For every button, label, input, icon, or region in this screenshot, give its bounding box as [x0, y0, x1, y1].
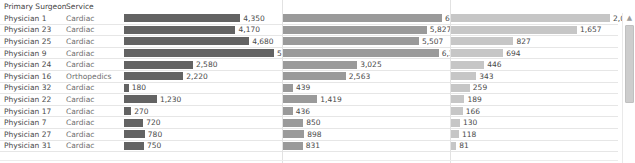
bar-measure-1[interactable]	[124, 119, 143, 127]
table-row[interactable]: Physician 31Cardiac75083181	[0, 141, 618, 153]
bar-measure-2[interactable]	[282, 72, 346, 80]
bar-measure-2[interactable]	[282, 61, 357, 69]
table-bottom-edge	[0, 160, 618, 161]
table-row[interactable]: Physician 16Orthopedics2,2202,563343	[0, 71, 618, 83]
bar-measure-1[interactable]	[124, 14, 240, 22]
bar-cell-measure-3: 81	[450, 140, 618, 152]
bar-cell-measure-1: 180	[124, 82, 282, 94]
bar-measure-1[interactable]	[124, 49, 274, 57]
cell-service: Cardiac	[62, 49, 124, 58]
bar-measure-3[interactable]	[450, 119, 460, 127]
bar-measure-3[interactable]	[450, 72, 476, 80]
bar-measure-1[interactable]	[124, 61, 193, 69]
pane-divider-1	[282, 0, 283, 163]
cell-primary-surgeon: Physician 31	[0, 141, 62, 150]
bar-measure-2[interactable]	[282, 107, 293, 115]
column-header-row: Primary Surgeon Service	[0, 0, 618, 13]
bar-value-label: 827	[513, 37, 530, 46]
bar-cell-measure-1: 780	[124, 128, 282, 140]
bar-cell-measure-1: 2,220	[124, 70, 282, 82]
bar-measure-2[interactable]	[282, 14, 442, 22]
cell-service: Cardiac	[62, 60, 124, 69]
bar-measure-2[interactable]	[282, 26, 427, 34]
bar-measure-3[interactable]	[450, 14, 610, 22]
bar-measure-1[interactable]	[124, 26, 235, 34]
bar-measure-2[interactable]	[282, 95, 317, 103]
bar-measure-3[interactable]	[450, 49, 503, 57]
bar-value-label: 850	[303, 118, 320, 127]
cell-service: Cardiac	[62, 83, 124, 92]
bar-cell-measure-2: 3,025	[282, 59, 450, 71]
bar-measure-3[interactable]	[450, 61, 484, 69]
cell-primary-surgeon: Physician 25	[0, 37, 62, 46]
bar-cell-measure-1: 1,230	[124, 94, 282, 106]
bar-cell-measure-2: 436	[282, 105, 450, 117]
bar-cell-measure-1: 750	[124, 140, 282, 152]
bar-measure-3[interactable]	[450, 26, 577, 34]
bar-value-label: 343	[476, 72, 493, 81]
bar-measure-2[interactable]	[282, 37, 419, 45]
bar-value-label: 81	[456, 141, 469, 150]
bar-cell-measure-3: 343	[450, 70, 618, 82]
bar-value-label: 118	[459, 130, 476, 139]
table-row[interactable]: Physician 25Cardiac4,6805,507827	[0, 36, 618, 48]
bar-measure-1[interactable]	[124, 107, 131, 115]
bar-cell-measure-1: 4,350	[124, 13, 282, 25]
bar-cell-measure-3: 259	[450, 82, 618, 94]
bar-cell-measure-3: 446	[450, 59, 618, 71]
bar-measure-3[interactable]	[450, 107, 463, 115]
bar-measure-1[interactable]	[124, 95, 157, 103]
bar-measure-1[interactable]	[124, 72, 183, 80]
scrollbar-thumb[interactable]	[625, 25, 634, 103]
table-row[interactable]: Physician 1Cardiac4,3506,4372,087	[0, 13, 618, 25]
vertical-scrollbar[interactable]: ▲	[622, 13, 635, 163]
bar-value-label: 4,350	[240, 14, 264, 23]
bar-measure-3[interactable]	[450, 130, 459, 138]
table-row[interactable]: Physician 17Cardiac270436166	[0, 106, 618, 118]
cell-service: Cardiac	[62, 130, 124, 139]
cell-service: Cardiac	[62, 37, 124, 46]
bar-measure-3[interactable]	[450, 95, 464, 103]
bar-cell-measure-1: 720	[124, 117, 282, 129]
bar-value-label: 180	[129, 83, 146, 92]
bar-measure-2[interactable]	[282, 49, 439, 57]
bar-value-label: 166	[463, 107, 480, 116]
bar-cell-measure-1: 270	[124, 105, 282, 117]
bar-cell-measure-1: 4,170	[124, 24, 282, 36]
bar-measure-3[interactable]	[450, 37, 513, 45]
bar-cell-measure-1: 5,610	[124, 47, 282, 59]
cell-primary-surgeon: Physician 16	[0, 72, 62, 81]
bar-value-label: 189	[464, 95, 481, 104]
bar-value-label: 2,580	[193, 60, 217, 69]
cell-primary-surgeon: Physician 22	[0, 95, 62, 104]
data-rows-container: Physician 1Cardiac4,3506,4372,087Physici…	[0, 13, 618, 161]
bar-cell-measure-3: 694	[450, 47, 618, 59]
table-row[interactable]: Physician 9Cardiac5,6106,304694	[0, 48, 618, 60]
table-row[interactable]: Physician 7Cardiac720850130	[0, 117, 618, 129]
column-header-primary-surgeon[interactable]: Primary Surgeon	[0, 2, 62, 11]
table-row[interactable]: Physician 24Cardiac2,5803,025446	[0, 59, 618, 71]
bar-chart-table: Primary Surgeon Service Physician 1Cardi…	[0, 0, 635, 163]
bar-cell-measure-2: 1,419	[282, 94, 450, 106]
cell-primary-surgeon: Physician 32	[0, 83, 62, 92]
bar-measure-2[interactable]	[282, 130, 304, 138]
table-row[interactable]: Physician 22Cardiac1,2301,419189	[0, 94, 618, 106]
cell-primary-surgeon: Physician 17	[0, 107, 62, 116]
bar-measure-1[interactable]	[124, 37, 249, 45]
table-row[interactable]: Physician 32Cardiac180439259	[0, 83, 618, 95]
table-row[interactable]: Physician 23Cardiac4,1705,8271,657	[0, 25, 618, 37]
bar-cell-measure-2: 898	[282, 128, 450, 140]
bar-measure-1[interactable]	[124, 130, 145, 138]
bar-value-label: 720	[143, 118, 160, 127]
bar-measure-2[interactable]	[282, 84, 293, 92]
bar-value-label: 4,170	[235, 25, 259, 34]
bar-measure-1[interactable]	[124, 142, 144, 150]
table-row[interactable]: Physician 27Cardiac780898118	[0, 129, 618, 141]
bar-cell-measure-3: 166	[450, 105, 618, 117]
scroll-up-arrow-icon[interactable]: ▲	[623, 13, 635, 24]
bar-measure-3[interactable]	[450, 84, 470, 92]
bar-measure-2[interactable]	[282, 119, 303, 127]
bar-measure-2[interactable]	[282, 142, 303, 150]
column-header-service[interactable]: Service	[62, 2, 124, 11]
scrollbar-track[interactable]	[623, 24, 635, 163]
